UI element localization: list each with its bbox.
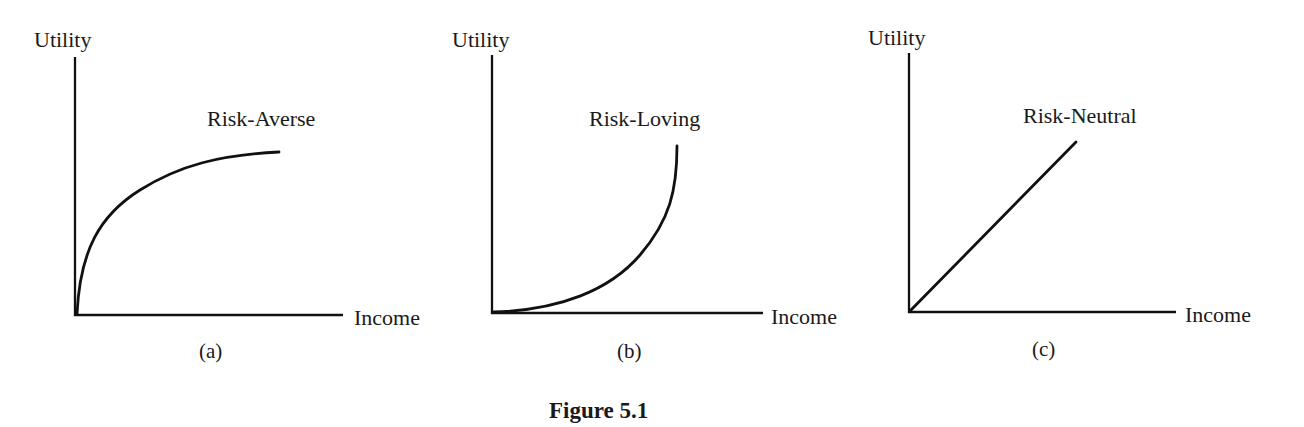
panel-caption: (b) [617, 339, 642, 363]
curve-label: Risk-Neutral [1023, 103, 1137, 128]
y-axis-label: Utility [868, 25, 925, 50]
panel-b: Utility Risk-Loving Income (b) [452, 27, 837, 363]
panel-caption: (a) [199, 339, 222, 363]
y-axis-label: Utility [452, 27, 509, 52]
axes [492, 55, 763, 313]
panel-caption: (c) [1032, 337, 1055, 361]
figure-canvas: Utility Risk-Averse Income (a) Utility R… [0, 0, 1304, 427]
x-axis-label: Income [771, 304, 837, 329]
figure-title: Figure 5.1 [549, 398, 648, 423]
x-axis-label: Income [354, 305, 420, 330]
risk-averse-curve [77, 152, 279, 314]
panel-c: Utility Risk-Neutral Income (c) [868, 25, 1251, 361]
curve-label: Risk-Loving [589, 106, 700, 131]
risk-neutral-line [910, 142, 1076, 311]
risk-loving-curve [494, 146, 677, 312]
y-axis-label: Utility [34, 27, 91, 52]
curve-label: Risk-Averse [207, 106, 315, 131]
x-axis-label: Income [1185, 302, 1251, 327]
axes [75, 57, 343, 315]
panel-a: Utility Risk-Averse Income (a) [34, 27, 420, 363]
